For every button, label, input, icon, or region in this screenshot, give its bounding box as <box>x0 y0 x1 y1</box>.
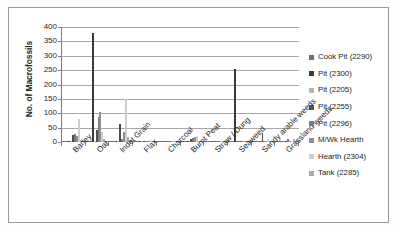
y-axis-tick-label: 150 <box>33 95 57 103</box>
bar-groups <box>62 27 299 142</box>
y-axis-tick-label: 250 <box>33 66 57 74</box>
legend-label: Pit (2296) <box>318 120 352 128</box>
legend-label: Pit (2205) <box>318 86 352 94</box>
legend-item[interactable]: M/Wk Hearth <box>309 132 399 149</box>
y-axis-tick-mark <box>58 113 62 114</box>
bar-group <box>252 27 276 142</box>
legend-swatch-icon <box>309 71 314 76</box>
chart-legend: Cook Pit (2290)Pit (2300)Pit (2205)Pit (… <box>309 49 399 189</box>
y-axis-tick-label: 350 <box>33 37 57 45</box>
y-axis-tick-mark <box>58 99 62 100</box>
y-axis-tick-label: 300 <box>33 52 57 60</box>
legend-label: Hearth (2304) <box>318 153 366 161</box>
legend-swatch-icon <box>309 154 314 159</box>
bar-group <box>157 27 181 142</box>
legend-label: Cook Pit (2290) <box>318 53 372 61</box>
legend-swatch-icon <box>309 171 314 176</box>
legend-item[interactable]: Pit (2296) <box>309 115 399 132</box>
legend-label: M/Wk Hearth <box>318 136 364 144</box>
legend-swatch-icon <box>309 105 314 110</box>
y-axis-tick-mark <box>58 41 62 42</box>
y-axis-tick-label: 0 <box>33 138 57 146</box>
plot-area <box>61 27 298 142</box>
y-axis-tick-mark <box>58 56 62 57</box>
legend-label: Pit (2300) <box>318 70 352 78</box>
legend-swatch-icon <box>309 138 314 143</box>
legend-label: Tank (2285) <box>318 169 359 177</box>
bar-group <box>62 27 86 142</box>
legend-item[interactable]: Pit (2300) <box>309 66 399 83</box>
y-axis-tick-label: 200 <box>33 81 57 89</box>
bar <box>92 33 94 142</box>
y-axis-tick-mark <box>58 128 62 129</box>
y-axis-tick-label: 50 <box>33 124 57 132</box>
x-axis-category-labels: BarleyOatIndet GrainFlaxCharcoalBurnt Pe… <box>61 144 311 224</box>
y-axis-tick-mark <box>58 27 62 28</box>
y-axis-tick-label: 400 <box>33 23 57 31</box>
legend-item[interactable]: Pit (2255) <box>309 99 399 116</box>
chart-frame: No. of Macrofossils 40035030025020015010… <box>8 7 389 223</box>
bar-group <box>181 27 205 142</box>
y-axis-tick-labels: 400350300250200150100500 <box>33 23 57 142</box>
y-axis-tick-mark <box>58 70 62 71</box>
legend-swatch-icon <box>309 55 314 60</box>
legend-swatch-icon <box>309 121 314 126</box>
bar-group <box>109 27 133 142</box>
chart-figure: No. of Macrofossils 40035030025020015010… <box>0 0 399 233</box>
legend-item[interactable]: Tank (2285) <box>309 165 399 182</box>
y-axis-tick-label: 100 <box>33 109 57 117</box>
legend-item[interactable]: Cook Pit (2290) <box>309 49 399 66</box>
bar <box>125 99 127 142</box>
legend-item[interactable]: Pit (2205) <box>309 82 399 99</box>
legend-label: Pit (2255) <box>318 103 352 111</box>
y-axis-tick-mark <box>58 85 62 86</box>
bar-group <box>86 27 110 142</box>
legend-item[interactable]: Hearth (2304) <box>309 149 399 166</box>
legend-swatch-icon <box>309 88 314 93</box>
